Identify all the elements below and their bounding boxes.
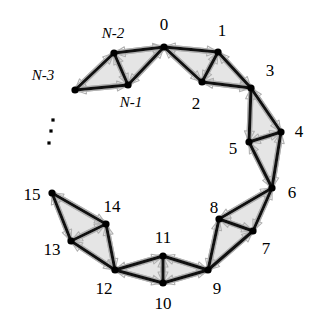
ring-lattice-diagram: 0123456789101112131415N-3N-1N-2	[0, 0, 316, 325]
node-label-n-3: N-3	[32, 68, 55, 83]
graph-node	[159, 279, 166, 286]
node-label-3: 3	[266, 62, 275, 79]
ellipsis-dot	[49, 129, 52, 132]
node-label-5: 5	[229, 140, 238, 157]
node-label-n-2: N-2	[102, 26, 125, 41]
node-label-13: 13	[44, 241, 61, 258]
graph-node	[102, 220, 109, 227]
graph-node	[277, 128, 284, 135]
node-label-8: 8	[210, 199, 219, 216]
graph-node	[204, 266, 211, 273]
ellipsis-dot	[47, 141, 50, 144]
node-label-9: 9	[213, 280, 222, 297]
ellipsis-dots	[47, 118, 54, 144]
node-label-n-1: N-1	[120, 95, 143, 110]
graph-node	[111, 266, 118, 273]
graph-node	[198, 78, 205, 85]
node-label-15: 15	[24, 186, 41, 203]
ellipsis-dot	[51, 118, 54, 121]
graph-edge	[249, 88, 251, 142]
graph-node	[67, 237, 74, 244]
graph-node	[160, 43, 167, 50]
graph-node	[48, 189, 55, 196]
graph-node	[159, 252, 166, 259]
graph-node	[247, 84, 254, 91]
node-label-2: 2	[192, 95, 201, 112]
graph-node	[71, 86, 78, 93]
node-label-12: 12	[96, 280, 113, 297]
node-label-14: 14	[104, 198, 121, 215]
node-label-4: 4	[295, 123, 304, 140]
node-label-0: 0	[160, 16, 169, 33]
node-label-6: 6	[288, 184, 297, 201]
graph-node	[268, 184, 275, 191]
node-label-10: 10	[155, 295, 172, 312]
graph-node	[249, 227, 256, 234]
graph-canvas	[0, 0, 316, 325]
graph-node	[124, 81, 131, 88]
graph-node	[110, 49, 117, 56]
graph-node	[214, 48, 221, 55]
node-label-1: 1	[218, 22, 227, 39]
node-label-7: 7	[262, 240, 271, 257]
node-label-11: 11	[155, 229, 171, 246]
graph-node	[245, 138, 252, 145]
